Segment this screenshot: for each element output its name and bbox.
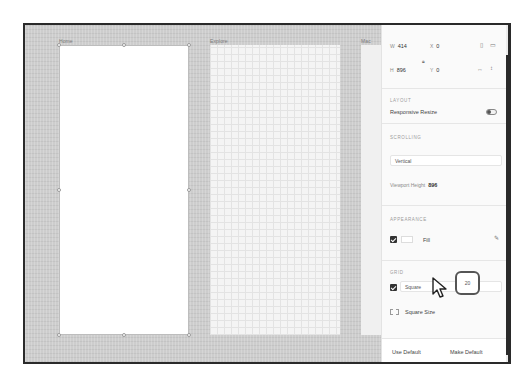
resize-handle[interactable] bbox=[57, 188, 61, 192]
square-size-row: Square Size bbox=[390, 309, 435, 315]
flip-horizontal-icon[interactable]: ↔ bbox=[477, 66, 483, 72]
portrait-icon[interactable]: ▯ bbox=[480, 41, 483, 48]
app-window: Home Explore Mac Data W 414 X 0 ▯ ▭ bbox=[23, 23, 511, 364]
viewport-height-field[interactable]: Viewport Height 896 bbox=[390, 182, 437, 188]
resize-handle[interactable] bbox=[187, 43, 191, 47]
eyedropper-icon[interactable]: ✎ bbox=[494, 234, 499, 241]
property-inspector: W 414 X 0 ▯ ▭ H 896 🔒︎ Y 0 ↔ ↕ LAYOUT Re… bbox=[381, 25, 506, 362]
resize-handle[interactable] bbox=[122, 333, 126, 337]
fill-checkbox[interactable] bbox=[390, 236, 397, 243]
y-field[interactable]: Y 0 bbox=[430, 67, 439, 73]
landscape-icon[interactable]: ▭ bbox=[490, 41, 496, 48]
layout-section: LAYOUT Responsive Resize bbox=[382, 88, 507, 120]
grid-size-icon bbox=[390, 309, 399, 315]
width-field[interactable]: W 414 bbox=[390, 43, 407, 49]
grid-row bbox=[390, 284, 397, 291]
responsive-resize-toggle[interactable] bbox=[486, 109, 497, 115]
resize-handle[interactable] bbox=[122, 43, 126, 47]
flip-vertical-icon[interactable]: ↕ bbox=[490, 65, 493, 71]
scrollbar-thumb[interactable] bbox=[506, 55, 510, 355]
scroll-mode-dropdown[interactable]: Vertical bbox=[390, 155, 502, 166]
responsive-resize-label: Responsive Resize bbox=[390, 109, 437, 115]
fill-color-swatch[interactable] bbox=[401, 236, 413, 243]
resize-handle[interactable] bbox=[57, 43, 61, 47]
x-field[interactable]: X 0 bbox=[430, 43, 439, 49]
grid-section: GRID Square Square Size bbox=[382, 260, 507, 340]
make-default-button[interactable]: Make Default bbox=[450, 349, 482, 355]
resize-handle[interactable] bbox=[187, 188, 191, 192]
square-size-input[interactable]: 20 bbox=[455, 271, 480, 295]
design-canvas[interactable]: Home Explore Mac Data bbox=[25, 25, 381, 362]
resize-handle[interactable] bbox=[57, 333, 61, 337]
scrolling-section: SCROLLING Vertical Viewport Height 896 bbox=[382, 123, 507, 201]
artboard-label-explore[interactable]: Explore bbox=[210, 38, 228, 44]
fill-row: Fill bbox=[390, 236, 430, 243]
artboard-home[interactable] bbox=[59, 45, 189, 335]
resize-handle[interactable] bbox=[187, 333, 191, 337]
appearance-section: APPEARANCE Fill ✎ bbox=[382, 205, 507, 257]
lock-aspect-icon[interactable]: 🔒︎ bbox=[422, 58, 425, 65]
panel-footer: Use Default Make Default bbox=[382, 338, 507, 364]
use-default-button[interactable]: Use Default bbox=[392, 349, 421, 355]
panel-scrollbar[interactable] bbox=[506, 25, 510, 362]
mouse-cursor-icon bbox=[432, 277, 448, 299]
artboard-explore[interactable] bbox=[210, 45, 340, 335]
grid-checkbox[interactable] bbox=[390, 284, 397, 291]
grid-type-dropdown[interactable]: Square bbox=[400, 281, 502, 292]
artboard-label-home[interactable]: Home bbox=[59, 38, 73, 44]
height-field[interactable]: H 896 bbox=[390, 67, 406, 73]
